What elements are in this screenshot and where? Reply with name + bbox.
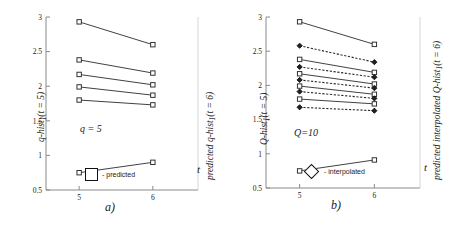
y-tick-label: 0.5 [253, 184, 263, 193]
panel-a-x-axis-label: t [197, 163, 200, 175]
x-tick-label: 5 [298, 191, 302, 200]
y-tick-label: 0.5 [33, 186, 43, 195]
panel-a: 0.511.522.5356 q-hist1(t = 5) predicted … [0, 0, 226, 225]
data-point-square [151, 93, 155, 97]
x-tick-label: 5 [77, 193, 81, 202]
x-tick-label: 6 [151, 193, 155, 202]
data-series-line [79, 22, 153, 45]
data-point-diamond [372, 60, 377, 65]
data-series-line [300, 107, 375, 110]
square-marker-icon [85, 168, 98, 181]
data-point-square [77, 98, 81, 102]
y-tick-label: 2 [38, 82, 42, 91]
y-tick-label: 3 [38, 13, 42, 22]
data-series-line [300, 74, 375, 84]
panel-b-caption: b) [331, 198, 341, 213]
x-tick-label: 6 [372, 191, 376, 200]
data-point-diamond [297, 105, 302, 110]
data-point-square [372, 70, 376, 74]
y-tick-label: 3 [258, 13, 262, 22]
data-point-square [77, 58, 81, 62]
data-point-square [77, 171, 81, 175]
diamond-marker-icon [304, 164, 320, 180]
data-point-diamond [297, 64, 302, 69]
panel-a-annotation: q = 5 [80, 123, 102, 134]
data-point-square [77, 85, 81, 89]
data-point-diamond [297, 77, 302, 82]
data-series-line [79, 60, 153, 73]
panel-b: 0.511.522.5356 Q-hist1(t = 5) predicted … [226, 0, 453, 225]
data-point-diamond [297, 43, 302, 48]
panel-a-caption: a) [105, 200, 115, 215]
data-point-square [372, 158, 376, 162]
data-point-square [151, 103, 155, 107]
data-point-square [297, 57, 301, 61]
data-point-square [77, 20, 81, 24]
data-point-square [151, 83, 155, 87]
panel-b-y-axis-label-right: predicted interpolated Q-hist1(t = 6) [432, 41, 444, 180]
data-point-diamond [297, 89, 302, 94]
data-series-line [300, 22, 375, 45]
data-series-line [300, 99, 375, 104]
panel-b-annotation: Q=10 [294, 127, 318, 138]
data-point-square [297, 84, 301, 88]
data-series-line [300, 59, 375, 72]
panel-b-x-axis-label: t [424, 161, 427, 173]
panel-a-legend: - predicted [85, 168, 135, 181]
data-series-line [300, 46, 375, 62]
y-tick-label: 2 [258, 81, 262, 90]
panel-a-plot: 0.511.522.5356 [0, 0, 226, 225]
y-tick-label: 2.5 [33, 47, 43, 56]
panel-a-y-axis-label-left: q-hist1(t = 5) [36, 92, 48, 142]
panel-b-legend: - interpolated [306, 166, 365, 177]
data-point-square [151, 42, 155, 46]
panel-a-legend-label: - predicted [102, 171, 135, 178]
data-point-square [297, 72, 301, 76]
y-tick-label: 1 [38, 151, 42, 160]
y-tick-label: 2.5 [253, 47, 263, 56]
data-point-diamond [372, 75, 377, 80]
data-point-square [372, 102, 376, 106]
panel-b-legend-label: - interpolated [324, 168, 365, 175]
figure-container: 0.511.522.5356 q-hist1(t = 5) predicted … [0, 0, 453, 225]
data-point-square [297, 97, 301, 101]
data-point-square [151, 71, 155, 75]
data-point-square [151, 160, 155, 164]
data-series-line [300, 86, 375, 94]
panel-a-y-axis-label-right: predicted q-hist1(t = 6) [205, 92, 217, 180]
panel-b-y-axis-label-left: Q-hist1(t = 5) [259, 93, 271, 145]
data-series-line [300, 92, 375, 99]
data-series-line [79, 74, 153, 84]
data-point-square [372, 42, 376, 46]
data-point-square [297, 169, 301, 173]
data-series-line [79, 100, 153, 105]
data-point-square [297, 20, 301, 24]
data-point-diamond [372, 108, 377, 113]
y-tick-label: 1 [258, 150, 262, 159]
data-series-line [79, 87, 153, 95]
data-point-square [77, 72, 81, 76]
